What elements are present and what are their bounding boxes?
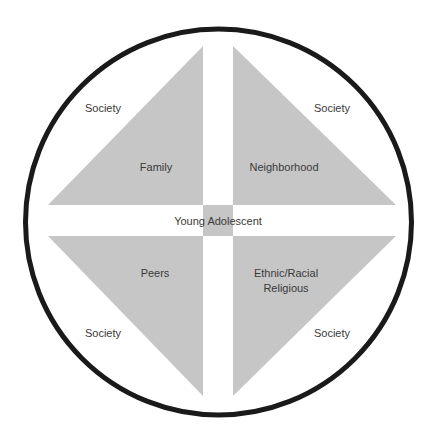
society-label-bottom-right: Society [314,326,350,340]
ethnic-racial-label: Ethnic/Racial [254,266,318,280]
neighborhood-quadrant [233,46,396,205]
young-adolescent-label: Young Adolescent [174,214,262,228]
society-label-top-right: Society [314,101,350,115]
peers-label: Peers [141,266,170,280]
ethnic-racial-religious-quadrant [233,236,396,396]
peers-quadrant [48,236,203,396]
neighborhood-label: Neighborhood [249,160,318,174]
society-label-bottom-left: Society [85,326,121,340]
society-label-top-left: Society [85,101,121,115]
family-label: Family [140,160,172,174]
family-quadrant [48,46,203,205]
religious-label: Religious [263,281,308,295]
